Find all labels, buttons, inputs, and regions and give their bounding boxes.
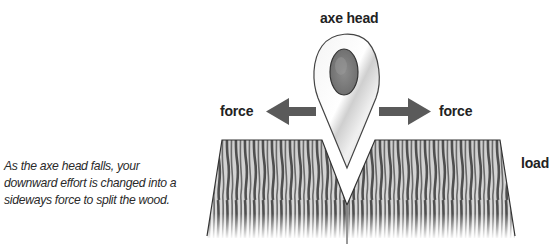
diagram-canvas: axe head force force load As the axe hea… [0,0,553,250]
axe-head-label: axe head [320,10,378,26]
caption-line: sideways force to split the wood. [4,192,229,209]
wood-block-right [347,140,515,238]
axe-wedge-illustration [0,0,553,250]
force-left-label: force [220,103,253,119]
load-label: load [521,155,549,171]
right-arrow-icon [379,98,431,125]
caption-line: downward effort is changed into a [4,175,229,192]
left-arrow-icon [266,98,316,125]
caption: As the axe head falls, your downward eff… [4,158,229,209]
caption-line: As the axe head falls, your [4,158,229,175]
force-right-label: force [439,103,472,119]
